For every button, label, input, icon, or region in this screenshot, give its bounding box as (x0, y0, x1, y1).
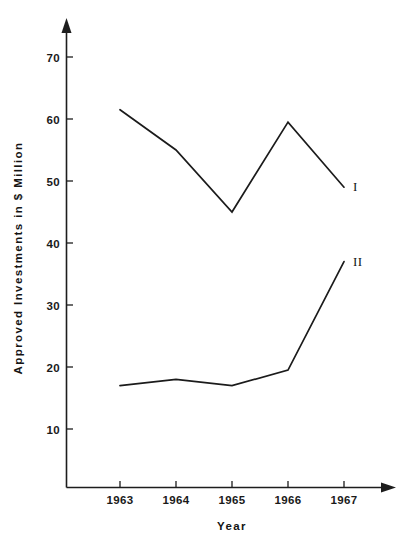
x-axis-title: Year (217, 520, 247, 532)
y-axis-title: Approved Investments in $ Million (12, 142, 24, 375)
y-tick-30: 30 (46, 300, 73, 312)
x-tick-label: 1966 (274, 494, 301, 506)
y-tick-label: 60 (46, 114, 60, 126)
x-tick-label: 1965 (218, 494, 245, 506)
x-axis-ticks: 1963 1964 1965 1966 1967 (106, 481, 357, 506)
x-tick-1966: 1966 (274, 481, 301, 506)
x-tick-label: 1967 (330, 494, 357, 506)
y-tick-50: 50 (46, 176, 73, 188)
series-line-II (120, 262, 344, 386)
y-tick-40: 40 (46, 238, 73, 250)
x-axis (67, 483, 397, 493)
y-axis-arrow-icon (62, 18, 72, 33)
y-tick-label: 70 (46, 52, 60, 64)
x-tick-label: 1963 (106, 494, 133, 506)
y-tick-70: 70 (46, 52, 73, 64)
y-axis (62, 18, 72, 488)
y-tick-label: 30 (46, 300, 60, 312)
series-labels: I II (353, 179, 363, 268)
x-tick-1964: 1964 (162, 481, 189, 506)
y-tick-label: 40 (46, 238, 60, 250)
y-tick-label: 10 (46, 424, 60, 436)
data-series-group (120, 110, 344, 386)
chart-canvas: 70 60 50 40 30 20 (0, 0, 403, 544)
x-tick-1965: 1965 (218, 481, 245, 506)
y-tick-label: 20 (46, 362, 60, 374)
y-tick-label: 50 (46, 176, 60, 188)
x-tick-1963: 1963 (106, 481, 133, 506)
y-tick-60: 60 (46, 114, 73, 126)
x-tick-label: 1964 (162, 494, 189, 506)
x-axis-arrow-icon (381, 483, 396, 493)
x-tick-1967: 1967 (330, 481, 357, 506)
y-tick-20: 20 (46, 362, 73, 374)
series-label-II: II (353, 254, 363, 269)
series-line-I (120, 110, 344, 212)
y-axis-ticks: 70 60 50 40 30 20 (46, 52, 73, 436)
line-chart: 70 60 50 40 30 20 (0, 0, 403, 544)
series-label-I: I (353, 179, 358, 194)
y-tick-10: 10 (46, 424, 73, 436)
